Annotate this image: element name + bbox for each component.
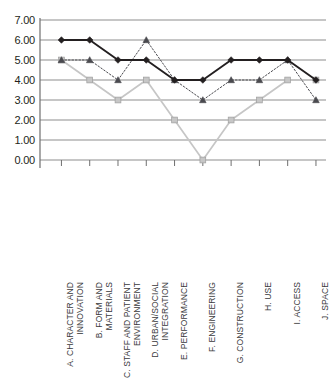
x-axis-category-label: F. ENGINEERING	[207, 282, 217, 352]
data-point-diamond	[58, 37, 65, 44]
category-label-line-2: INTEGRATION	[160, 282, 170, 358]
category-label-line-1: H. USE	[263, 282, 273, 311]
y-axis-tick-label: 2.00	[14, 115, 35, 126]
x-axis-category-label: B. FORM ANDMATERIALS	[94, 282, 114, 338]
x-axis-category-label: I. ACCESS	[292, 282, 302, 324]
category-label-line-1: C. STAFF AND PATIENT	[122, 282, 132, 378]
plot-area	[38, 18, 328, 168]
category-label-line-1: I. ACCESS	[292, 282, 302, 324]
category-label-line-1: F. ENGINEERING	[207, 282, 217, 352]
y-axis-tick-labels: 7.006.005.004.003.002.001.000.00	[0, 0, 38, 286]
y-axis-tick-label: 5.00	[14, 55, 35, 66]
x-axis-category-label: E. PERFORMANCE	[179, 282, 189, 360]
category-label-line-1: D. URBAN/SOCIAL	[150, 282, 160, 358]
data-point-square	[87, 77, 93, 83]
data-point-square	[143, 77, 149, 83]
series-line	[61, 60, 316, 160]
category-label-line-1: G. CONSTRUCTION	[235, 282, 245, 363]
category-label-line-1: A. CHARACTER AND	[65, 282, 75, 367]
x-axis-category-label: G. CONSTRUCTION	[235, 282, 245, 363]
category-label-line-1: B. FORM AND	[94, 282, 104, 338]
data-point-diamond	[256, 57, 263, 64]
series-3-square	[59, 57, 319, 163]
x-axis-category-label: H. USE	[263, 282, 273, 311]
category-label-line-2: INNOVATION	[75, 282, 85, 367]
series-2-triangle	[58, 37, 319, 103]
data-point-square	[200, 157, 206, 163]
y-axis-tick-label: 3.00	[14, 95, 35, 106]
y-axis-tick-label: 4.00	[14, 75, 35, 86]
data-point-square	[172, 117, 178, 123]
data-point-square	[228, 117, 234, 123]
category-label-line-2: ENVIRONMENT	[132, 282, 142, 378]
category-label-line-2: MATERIALS	[104, 282, 114, 338]
y-axis-tick-label: 0.00	[14, 155, 35, 166]
data-point-square	[285, 77, 291, 83]
category-label-line-1: E. PERFORMANCE	[179, 282, 189, 360]
series-line	[61, 40, 316, 100]
y-axis-tick-label: 6.00	[14, 35, 35, 46]
x-axis-category-labels: A. CHARACTER ANDINNOVATIONB. FORM ANDMAT…	[38, 170, 328, 286]
data-point-square	[115, 97, 121, 103]
y-axis-tick-label: 1.00	[14, 135, 35, 146]
data-point-square	[257, 97, 263, 103]
x-axis-category-label: J. SPACE	[320, 282, 330, 320]
y-axis-tick-label: 7.00	[14, 15, 35, 26]
plot-svg	[38, 18, 328, 178]
x-axis-category-label: D. URBAN/SOCIALINTEGRATION	[150, 282, 170, 358]
x-axis-category-label: A. CHARACTER ANDINNOVATION	[65, 282, 85, 367]
category-label-line-1: J. SPACE	[320, 282, 330, 320]
x-axis-category-label: C. STAFF AND PATIENTENVIRONMENT	[122, 282, 142, 378]
